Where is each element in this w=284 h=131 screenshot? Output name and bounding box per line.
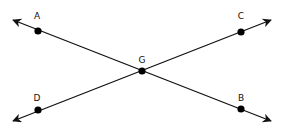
- label-d: D: [34, 93, 41, 103]
- intersecting-lines-diagram: ACGDB: [0, 0, 284, 131]
- point-c: [237, 28, 244, 35]
- label-c: C: [238, 11, 244, 21]
- labels-layer: ACGDB: [34, 11, 245, 103]
- label-b: B: [238, 93, 244, 103]
- point-g: [138, 67, 145, 74]
- label-g: G: [139, 55, 146, 65]
- point-a: [34, 27, 41, 34]
- diagram-canvas: ACGDB: [0, 0, 284, 131]
- point-b: [237, 105, 244, 112]
- label-a: A: [34, 11, 41, 21]
- point-d: [34, 106, 41, 113]
